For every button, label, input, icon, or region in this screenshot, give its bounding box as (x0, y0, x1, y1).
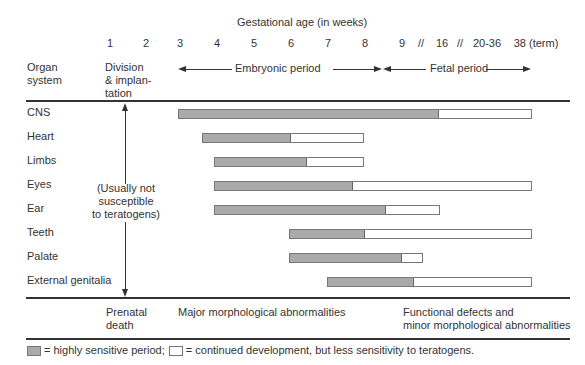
prenatal-death-line2: death (106, 319, 147, 332)
x-tick-label: 4 (214, 37, 220, 49)
legend-continued-label: = continued development, but less sensit… (186, 344, 474, 356)
axis-break-mark: // (457, 37, 463, 49)
axis-break-mark: // (418, 37, 424, 49)
division-header-line1: Division (105, 61, 151, 74)
continued-swatch-icon (169, 346, 183, 356)
development-bar (214, 157, 364, 167)
arrow-line (333, 69, 375, 70)
organ-label: Palate (27, 250, 58, 262)
sensitive-period-fill (203, 134, 291, 142)
prenatal-death-label: Prenatal death (106, 306, 147, 332)
vertical-arrow-line (125, 222, 126, 289)
functional-line2: minor morphological abnormalities (403, 319, 571, 332)
arrow-right-icon (374, 66, 382, 72)
development-bar (214, 181, 532, 191)
x-tick-label: 2 (143, 37, 149, 49)
fetal-period-label: Fetal period (430, 62, 488, 74)
organ-label: Limbs (27, 154, 56, 166)
x-tick-label: 7 (325, 37, 331, 49)
note-line3: to teratogens) (78, 208, 174, 221)
organ-system-header-line2: system (27, 74, 62, 87)
division-header-line3: tation (105, 87, 151, 100)
chart-title: Gestational age (in weeks) (237, 16, 367, 28)
sensitive-period-fill (215, 158, 307, 166)
x-tick-label: 6 (288, 37, 294, 49)
development-bar (327, 277, 532, 287)
development-bar (202, 133, 364, 143)
functional-defects-label: Functional defects and minor morphologic… (403, 306, 571, 332)
sensitive-period-fill (290, 254, 402, 262)
x-tick-label: 38 (term) (514, 37, 559, 49)
header-divider (26, 100, 570, 102)
development-bar (289, 229, 532, 239)
susceptibility-note: (Usually not susceptible to teratogens) (78, 182, 174, 221)
note-line1: (Usually not (78, 182, 174, 195)
arrow-line (486, 69, 524, 70)
vertical-arrow-line (125, 110, 126, 184)
arrow-line (390, 69, 426, 70)
legend-sensitive-label: = highly sensitive period; (44, 344, 165, 356)
organ-label: Heart (27, 130, 54, 142)
organ-label: CNS (27, 106, 50, 118)
rows-divider (26, 297, 570, 299)
arrow-right-icon (523, 66, 531, 72)
embryonic-period-label: Embryonic period (235, 62, 321, 74)
arrow-down-icon (122, 289, 128, 297)
development-bar (178, 109, 532, 119)
x-tick-label: 8 (362, 37, 368, 49)
organ-system-header-line1: Organ (27, 61, 62, 74)
x-tick-label: 20-36 (473, 37, 501, 49)
sensitive-period-fill (179, 110, 439, 118)
sensitive-period-fill (290, 230, 365, 238)
functional-line1: Functional defects and (403, 306, 571, 319)
sensitive-period-fill (215, 182, 353, 190)
division-header: Division & implan- tation (105, 61, 151, 100)
sensitive-period-fill (328, 278, 414, 286)
major-abnormalities-label: Major morphological abnormalities (178, 306, 346, 319)
sensitive-swatch-icon (27, 346, 41, 356)
organ-label: Ear (27, 202, 44, 214)
prenatal-death-line1: Prenatal (106, 306, 147, 319)
x-tick-label: 5 (251, 37, 257, 49)
legend: = highly sensitive period; = continued d… (27, 344, 474, 356)
x-tick-label: 16 (436, 37, 448, 49)
organ-label: External genitalia (27, 274, 111, 286)
legend-divider (26, 338, 570, 340)
x-tick-label: 3 (177, 37, 183, 49)
sensitive-period-fill (215, 206, 386, 214)
division-header-line2: & implan- (105, 74, 151, 87)
development-bar (214, 205, 440, 215)
x-tick-label: 9 (399, 37, 405, 49)
arrow-line (184, 69, 232, 70)
development-bar (289, 253, 423, 263)
note-line2: susceptible (78, 195, 174, 208)
organ-label: Eyes (27, 178, 51, 190)
x-tick-label: 1 (107, 37, 113, 49)
organ-label: Teeth (27, 226, 54, 238)
organ-system-header: Organ system (27, 61, 62, 87)
